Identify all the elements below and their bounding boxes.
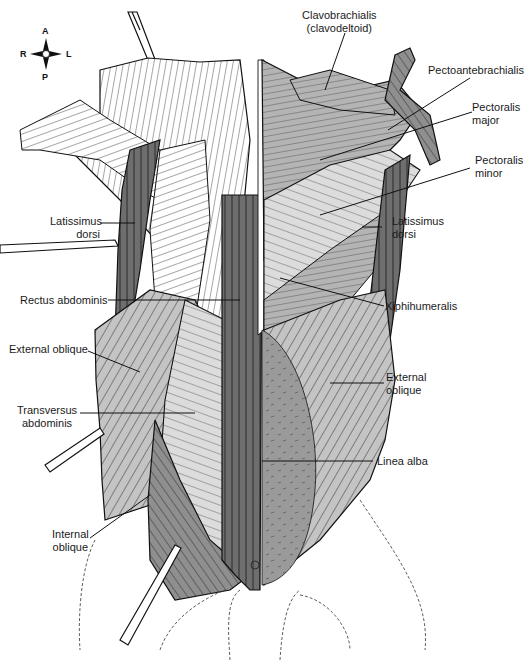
label-latissimus-left-line2: dorsi bbox=[392, 228, 444, 241]
label-latissimus-left-line1: Latissimus bbox=[392, 215, 444, 228]
anatomy-figure: A P R L Clavobrachialis (clavodeltoid) P… bbox=[0, 0, 529, 672]
label-pectoralis-minor-line1: Pectoralis bbox=[475, 154, 523, 167]
label-internal-oblique-line1: Internal bbox=[52, 528, 89, 541]
label-internal-oblique: Internal oblique bbox=[52, 528, 89, 554]
label-latissimus-right-line1: Latissimus bbox=[50, 215, 100, 228]
compass-posterior-label: P bbox=[42, 72, 48, 82]
label-external-oblique-right: External oblique bbox=[9, 343, 88, 356]
label-rectus-abdominis: Rectus abdominis bbox=[20, 294, 107, 307]
compass-anterior-label: A bbox=[42, 26, 49, 36]
label-pectoralis-minor: Pectoralis minor bbox=[475, 154, 523, 180]
compass-left-label: L bbox=[66, 49, 72, 59]
muscle-illustration bbox=[0, 0, 529, 672]
label-transversus-line2: abdominis bbox=[17, 417, 77, 430]
label-clavobrachialis: Clavobrachialis (clavodeltoid) bbox=[302, 9, 377, 35]
forceps-top-icon bbox=[128, 12, 156, 65]
label-internal-oblique-line2: oblique bbox=[52, 541, 89, 554]
compass-rose-icon bbox=[30, 38, 62, 70]
label-clavobrachialis-line2: (clavodeltoid) bbox=[302, 22, 377, 35]
label-pectoralis-minor-line2: minor bbox=[475, 167, 523, 180]
label-linea-alba: Linea alba bbox=[377, 455, 428, 468]
label-xiphihumeralis-line1: Xiphihumeralis bbox=[385, 300, 457, 313]
label-linea-alba-line1: Linea alba bbox=[377, 455, 428, 468]
label-external-oblique-right-line1: External oblique bbox=[9, 343, 88, 356]
label-clavobrachialis-line1: Clavobrachialis bbox=[302, 9, 377, 22]
forceps-left-icon bbox=[0, 240, 118, 253]
label-transversus-line1: Transversus bbox=[17, 404, 77, 417]
label-latissimus-dorsi-left: Latissimus dorsi bbox=[392, 215, 444, 241]
label-rectus-abdominis-line1: Rectus abdominis bbox=[20, 294, 107, 307]
label-external-oblique-left-line2: oblique bbox=[386, 384, 426, 397]
label-xiphihumeralis: Xiphihumeralis bbox=[385, 300, 457, 313]
label-external-oblique-left: External oblique bbox=[386, 371, 426, 397]
label-external-oblique-left-line1: External bbox=[386, 371, 426, 384]
compass-right-label: R bbox=[20, 49, 27, 59]
forceps-lower-left-icon bbox=[45, 428, 104, 472]
label-pectoralis-major-line1: Pectoralis bbox=[472, 101, 520, 114]
label-pectoralis-major-line2: major bbox=[472, 114, 520, 127]
label-pectoralis-major: Pectoralis major bbox=[472, 101, 520, 127]
label-latissimus-right-line2: dorsi bbox=[50, 228, 100, 241]
label-pectoantebrachialis: Pectoantebrachialis bbox=[428, 64, 524, 77]
label-transversus-abdominis: Transversus abdominis bbox=[17, 404, 77, 430]
label-pectoantebrachialis-line1: Pectoantebrachialis bbox=[428, 64, 524, 77]
rectus-abdominis bbox=[222, 195, 262, 590]
label-latissimus-dorsi-right: Latissimus dorsi bbox=[50, 215, 100, 241]
